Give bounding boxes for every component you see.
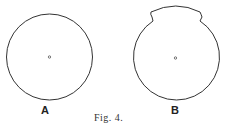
center-dot-a — [48, 56, 50, 58]
label-b: B — [171, 104, 179, 116]
circle-b — [133, 6, 219, 100]
center-dot-b — [174, 57, 176, 59]
circle-a — [7, 14, 93, 100]
label-a: A — [41, 104, 49, 116]
figure-caption: Fig. 4. — [94, 112, 123, 123]
